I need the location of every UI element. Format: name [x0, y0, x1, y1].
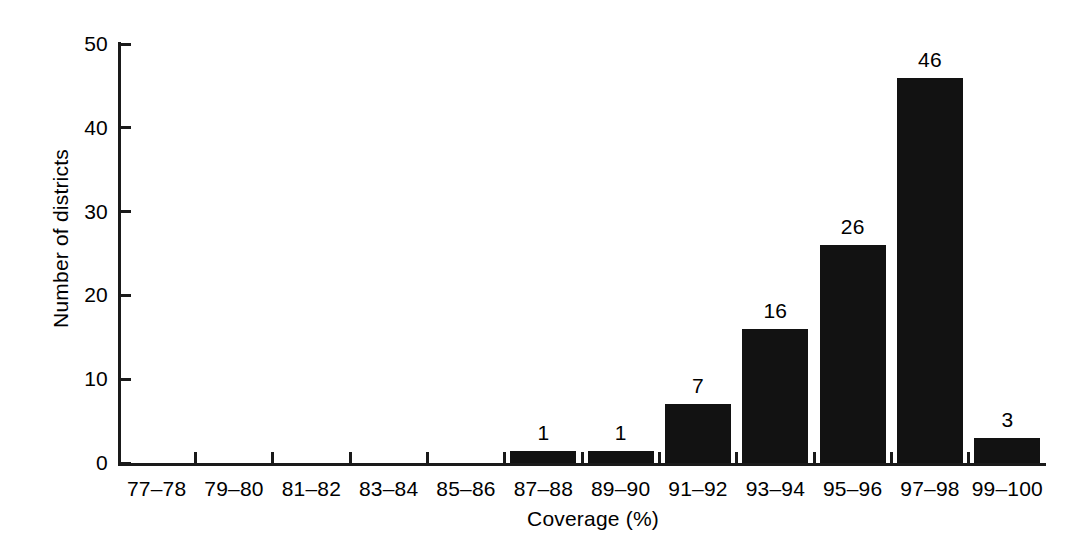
- x-axis-title: Coverage (%): [413, 508, 773, 530]
- bar: [588, 451, 654, 463]
- bar-value-label: 3: [947, 409, 1067, 430]
- bar-value-label: 46: [870, 49, 990, 70]
- bars-layer: 1171626463: [0, 0, 1091, 550]
- bar-value-label: 26: [793, 216, 913, 237]
- bar: [665, 404, 731, 463]
- bar: [510, 451, 576, 463]
- bar: [820, 245, 886, 463]
- bar: [974, 438, 1040, 463]
- bar-value-label: 1: [561, 422, 681, 443]
- y-axis-title: Number of districts: [50, 119, 71, 359]
- bar: [897, 78, 963, 463]
- bar: [742, 329, 808, 463]
- bar-value-label: 16: [715, 300, 835, 321]
- histogram-figure: 01020304050 1171626463 77–7879–8081–8283…: [0, 0, 1091, 550]
- bar-value-label: 7: [638, 375, 758, 396]
- x-axis-tick-label: 99–100: [947, 477, 1067, 501]
